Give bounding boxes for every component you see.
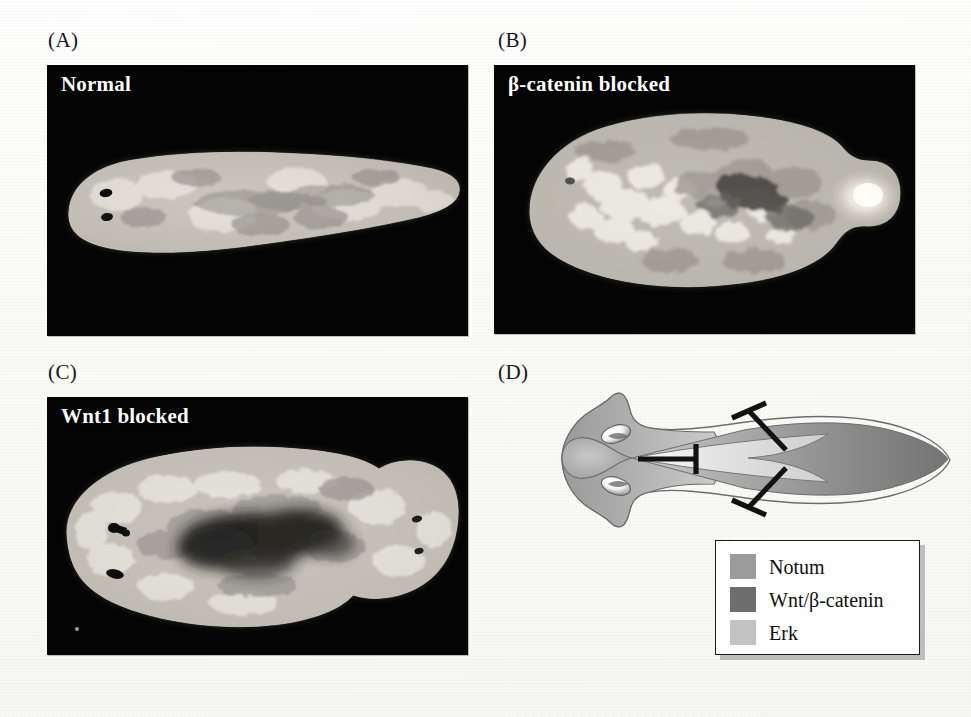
specimen-normal-planarian [47, 65, 468, 336]
panel-a-caption: Normal [61, 72, 131, 97]
panel-a-micrograph[interactable]: Normal [47, 65, 468, 336]
legend-item-wnt-beta-catenin[interactable]: Wnt/β-catenin [730, 583, 919, 616]
panel-label-a: (A) [48, 28, 78, 53]
panel-c-micrograph[interactable]: Wnt1 blocked [47, 397, 468, 655]
legend-item-erk[interactable]: Erk [730, 616, 919, 649]
diagram-legend: Notum Wnt/β-catenin Erk [715, 540, 920, 655]
legend-item-notum[interactable]: Notum [730, 550, 919, 583]
panel-d-schematic[interactable] [498, 370, 968, 550]
legend-label-erk: Erk [769, 623, 798, 643]
panel-label-c: (C) [48, 360, 77, 385]
legend-label-notum: Notum [769, 557, 825, 577]
legend-label-wnt-beta-catenin: Wnt/β-catenin [769, 590, 884, 610]
specimen-wnt1-blocked-planarian [47, 397, 468, 655]
panel-b-micrograph[interactable]: β-catenin blocked [494, 65, 915, 334]
legend-swatch-erk [730, 620, 756, 645]
panel-b-caption: β-catenin blocked [508, 72, 670, 97]
legend-swatch-notum [730, 554, 756, 579]
panel-label-b: (B) [498, 28, 527, 53]
specimen-bcatenin-blocked-planarian [494, 65, 915, 334]
legend-swatch-wnt-beta-catenin [730, 587, 756, 612]
panel-c-caption: Wnt1 blocked [61, 404, 189, 429]
